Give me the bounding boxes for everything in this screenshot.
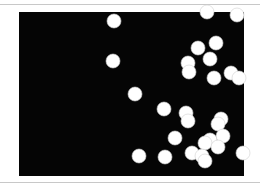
white-dot xyxy=(157,102,171,116)
white-dot xyxy=(232,71,246,85)
white-dot xyxy=(198,136,212,150)
white-dot xyxy=(158,150,172,164)
white-dot xyxy=(128,87,142,101)
white-dot xyxy=(107,14,121,28)
white-dot xyxy=(207,71,221,85)
white-dot xyxy=(200,5,214,19)
white-dot xyxy=(230,8,244,22)
white-dot xyxy=(132,149,146,163)
white-dot xyxy=(198,154,212,168)
white-dot xyxy=(168,131,182,145)
white-dot xyxy=(203,52,217,66)
white-dot xyxy=(236,146,250,160)
white-dot xyxy=(209,36,223,50)
white-dot xyxy=(211,140,225,154)
white-dot xyxy=(191,41,205,55)
bottom-rule xyxy=(0,182,260,183)
white-dot xyxy=(181,114,195,128)
white-dot xyxy=(106,54,120,68)
white-dot xyxy=(182,65,196,79)
white-dots-layer xyxy=(0,0,260,189)
